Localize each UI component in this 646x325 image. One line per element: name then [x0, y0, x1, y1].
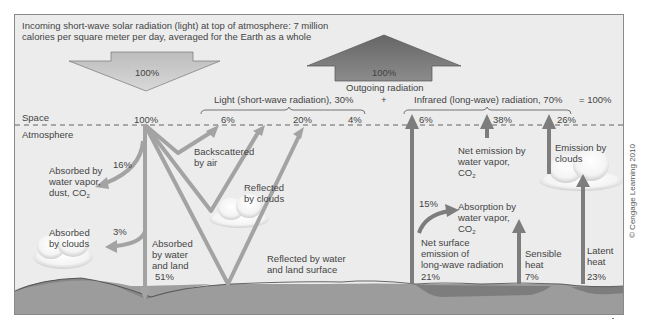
incoming-caption-line-1: Incoming short-wave solar radiation (lig… [22, 20, 328, 31]
backscatter-label-2: by air [194, 157, 217, 168]
net-surface-label-2: emission of [421, 248, 469, 259]
incoming-caption-line-2: calories per square meter per day, avera… [22, 31, 311, 42]
sensible-heat-label-1: Sensible [525, 248, 561, 259]
net-surface-percent: 21% [421, 271, 440, 282]
surface-reflect-percent: 4% [348, 114, 362, 125]
absorbed-clouds-label-2: by clouds [49, 238, 89, 249]
net-emission-co: CO [458, 167, 472, 178]
latent-heat-label-1: Latent [587, 245, 613, 256]
latent-heat-percent: 23% [587, 271, 606, 282]
infrared-total-label: Infrared (long-wave) radiation, 70% [414, 94, 562, 105]
atmosphere-label: Atmosphere [22, 129, 73, 140]
energy-budget-diagram: Incoming short-wave solar radiation (lig… [14, 14, 624, 315]
absorption-label-1: Absorption by [458, 201, 516, 212]
absorbed-clouds-label-1: Absorbed [49, 227, 90, 238]
net-surface-label-3: long-wave radiation [421, 259, 503, 270]
subscript-2: 2 [87, 193, 90, 199]
backscatter-percent: 6% [221, 114, 235, 125]
latent-heat-label-2: heat [587, 256, 606, 267]
backscatter-label-1: Backscattered [194, 146, 254, 157]
absorbed-clouds-percent: 3% [113, 226, 127, 237]
reflected-clouds-label-1: Reflected [244, 182, 284, 193]
absorbed-land-percent: 51% [155, 271, 174, 282]
absorbed-vapor-label-2: water vapor, [49, 176, 101, 187]
absorbed-vapor-text: dust, CO [49, 187, 87, 198]
absorption-percent: 15% [419, 198, 438, 209]
light-total-label: Light (short-wave radiation), 30% [214, 94, 353, 105]
cloud-emission-percent: 26% [557, 114, 576, 125]
reflected-clouds-label-2: by clouds [244, 193, 284, 204]
absorbed-land-label-3: and land [152, 260, 188, 271]
shortwave-top-percent: 100% [134, 114, 158, 125]
sensible-heat-percent: 7% [525, 271, 539, 282]
absorbed-land-label-2: by water [152, 249, 188, 260]
sensible-heat-label-2: heat [525, 259, 544, 270]
absorbed-land-label-1: Absorbed [152, 238, 193, 249]
net-emission-label-3: CO2 [458, 167, 476, 182]
net-emission-label-2: water vapor, [458, 156, 510, 167]
net-emission-label-1: Net emission by [458, 145, 526, 156]
reflected-surface-label-1: Reflected by water [267, 253, 346, 264]
net-surface-label-1: Net surface [421, 237, 470, 248]
reflected-surface-label-2: and land surface [267, 264, 337, 275]
outgoing-percent: 100% [372, 67, 396, 78]
copyright-credit: © Cengage Learning 2010 [628, 168, 637, 238]
outgoing-label: Outgoing radiation [346, 82, 424, 93]
absorption-label-2: water vapor, [458, 212, 510, 223]
absorbed-vapor-label-1: Absorbed by [49, 165, 102, 176]
cloud-emission-label-2: clouds [555, 153, 582, 164]
stray-mark [612, 318, 614, 319]
space-label: Space [22, 112, 49, 123]
cloud-reflect-percent: 20% [293, 114, 312, 125]
absorption-co: CO [458, 223, 472, 234]
cloud-emission-label-1: Emission by [555, 142, 606, 153]
subscript-2: 2 [472, 229, 475, 235]
equals-total: = 100% [579, 94, 612, 105]
plus-sign: + [381, 94, 387, 105]
absorption-label-3: CO2 [458, 223, 476, 238]
surface-direct-percent: 6% [419, 114, 433, 125]
incoming-percent: 100% [135, 67, 159, 78]
absorbed-vapor-percent: 16% [113, 159, 132, 170]
vapor-emission-percent: 38% [493, 114, 512, 125]
absorbed-vapor-label-3: dust, CO2 [49, 187, 90, 202]
subscript-2: 2 [472, 173, 475, 179]
